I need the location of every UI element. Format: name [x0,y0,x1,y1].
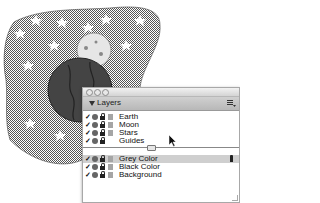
view-icon[interactable] [92,138,98,144]
view-icon[interactable] [92,156,98,162]
view-icon[interactable] [92,130,98,136]
layer-divider[interactable] [83,147,239,153]
lock-icon[interactable] [100,158,105,162]
layer-row-moon[interactable]: ✓ Moon [83,121,239,129]
lock-icon[interactable] [100,140,105,144]
resize-grip-icon[interactable] [232,195,238,201]
panel-options-icon[interactable] [227,99,236,108]
color-swatch [108,122,113,128]
layer-group-2: ✓ Grey Color ✓ Black Color ✓ Background [83,155,239,179]
active-pen-icon [230,155,233,162]
lock-icon[interactable] [100,124,105,128]
color-swatch [108,164,113,170]
layer-row-grey-color[interactable]: ✓ Grey Color [83,155,239,163]
tab-layers[interactable]: Layers [83,97,239,111]
layer-row-guides[interactable]: ✓ Guides [83,137,239,145]
visibility-check-icon[interactable]: ✓ [85,129,91,137]
lock-icon[interactable] [100,116,105,120]
visibility-check-icon[interactable]: ✓ [85,163,91,171]
tab-label: Layers [97,98,121,107]
lock-icon[interactable] [100,174,105,178]
lock-icon[interactable] [100,166,105,170]
layer-name: Guides [119,137,144,145]
layers-panel: Layers ✓ Earth ✓ Moon ✓ Stars [82,87,240,203]
view-icon[interactable] [92,172,98,178]
close-icon[interactable] [86,89,93,96]
color-swatch [108,130,113,136]
panel-titlebar[interactable] [83,88,239,97]
view-icon[interactable] [92,114,98,120]
layer-row-stars[interactable]: ✓ Stars [83,129,239,137]
visibility-check-icon[interactable]: ✓ [85,137,91,145]
layer-row-background[interactable]: ✓ Background [83,171,239,179]
color-swatch [108,114,113,120]
mouse-cursor-icon [169,135,177,147]
color-swatch [108,156,113,162]
layer-group-1: ✓ Earth ✓ Moon ✓ Stars ✓ Guides [83,111,239,145]
visibility-check-icon[interactable]: ✓ [85,155,91,163]
disclosure-triangle-icon[interactable] [89,101,95,106]
color-swatch [108,172,113,178]
layer-name: Background [119,171,162,179]
visibility-check-icon[interactable]: ✓ [85,113,91,121]
view-icon[interactable] [92,122,98,128]
view-icon[interactable] [92,164,98,170]
visibility-check-icon[interactable]: ✓ [85,171,91,179]
layer-row-earth[interactable]: ✓ Earth [83,113,239,121]
visibility-check-icon[interactable]: ✓ [85,121,91,129]
lock-icon[interactable] [100,132,105,136]
minimize-icon[interactable] [94,89,101,96]
divider-handle[interactable] [147,145,156,151]
zoom-icon[interactable] [102,89,109,96]
